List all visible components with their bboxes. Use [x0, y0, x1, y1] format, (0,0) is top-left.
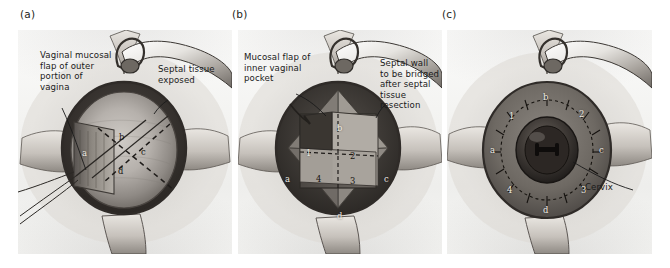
- panel-b-marker-1: 1: [306, 149, 311, 157]
- panel-b-marker-4: 4: [316, 175, 321, 183]
- panel-a-marker-a: a: [82, 149, 87, 157]
- panel-b-marker-a: a: [285, 175, 290, 183]
- panel-a-marker-b: b: [119, 133, 124, 141]
- mucosal-flap-inner-pocket-label: Mucosal flap of inner vaginal pocket: [244, 52, 326, 84]
- panel-b-marker-b: b: [337, 124, 342, 132]
- septal-tissue-exposed-label: Septal tissue exposed: [158, 64, 232, 85]
- panel-c-marker-2: 2: [579, 110, 584, 118]
- panel-b-marker-d: d: [337, 212, 342, 220]
- panel-b-image: Mucosal flap of inner vaginal pocket Sep…: [238, 30, 442, 254]
- panel-a-marker-d: d: [118, 167, 123, 175]
- panel-c-marker-1: 1: [509, 112, 514, 120]
- panel-c-artwork: [447, 30, 652, 254]
- panel-c-marker-d: d: [543, 206, 548, 214]
- panel-c-marker-c: c: [599, 146, 604, 154]
- cervix-label: Cervix: [585, 182, 637, 193]
- panel-c-marker-b: b: [543, 93, 548, 101]
- panel-c-tag: (c): [442, 9, 457, 20]
- panel-a-image: Vaginal mucosal flap of outer portion of…: [18, 30, 232, 254]
- panel-c-marker-3: 3: [581, 186, 586, 194]
- septal-wall-bridged-label: Septal wall to be bridged after septal t…: [380, 58, 442, 111]
- panel-b-marker-3: 3: [350, 177, 355, 185]
- panel-c-image: Cervix a b c d 1 2 3 4: [447, 30, 652, 254]
- panel-c-marker-4: 4: [507, 186, 512, 194]
- figure-container: (a): [0, 0, 670, 268]
- panel-b-marker-2: 2: [350, 152, 355, 160]
- panel-a-tag: (a): [20, 9, 35, 20]
- panel-b-marker-c: c: [384, 175, 389, 183]
- panel-a-marker-c: c: [141, 148, 146, 156]
- panel-c-marker-a: a: [490, 146, 495, 154]
- vaginal-mucosal-flap-label: Vaginal mucosal flap of outer portion of…: [40, 50, 126, 92]
- panel-b-tag: (b): [232, 9, 247, 20]
